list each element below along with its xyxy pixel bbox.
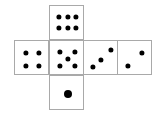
right-face bbox=[83, 40, 118, 75]
pip bbox=[23, 63, 28, 68]
pip bbox=[36, 63, 41, 68]
center-face bbox=[49, 40, 84, 75]
pip bbox=[64, 90, 72, 98]
pip bbox=[65, 56, 70, 61]
pip bbox=[56, 14, 61, 19]
top-face bbox=[49, 5, 84, 40]
pip bbox=[125, 63, 130, 68]
pip bbox=[90, 64, 95, 69]
far-right-face bbox=[117, 40, 152, 75]
pip bbox=[72, 49, 77, 54]
pip bbox=[108, 47, 113, 52]
pip bbox=[73, 25, 78, 30]
pip bbox=[23, 50, 28, 55]
pip bbox=[36, 50, 41, 55]
pip bbox=[98, 57, 103, 62]
pip bbox=[57, 63, 62, 68]
pip bbox=[65, 25, 70, 30]
pip bbox=[73, 14, 78, 19]
pip bbox=[57, 49, 62, 54]
pip bbox=[65, 14, 70, 19]
pip bbox=[139, 50, 144, 55]
dice-net-diagram bbox=[0, 0, 158, 122]
bottom-face bbox=[49, 75, 84, 110]
pip bbox=[56, 25, 61, 30]
left-face bbox=[14, 40, 49, 75]
pip bbox=[72, 63, 77, 68]
